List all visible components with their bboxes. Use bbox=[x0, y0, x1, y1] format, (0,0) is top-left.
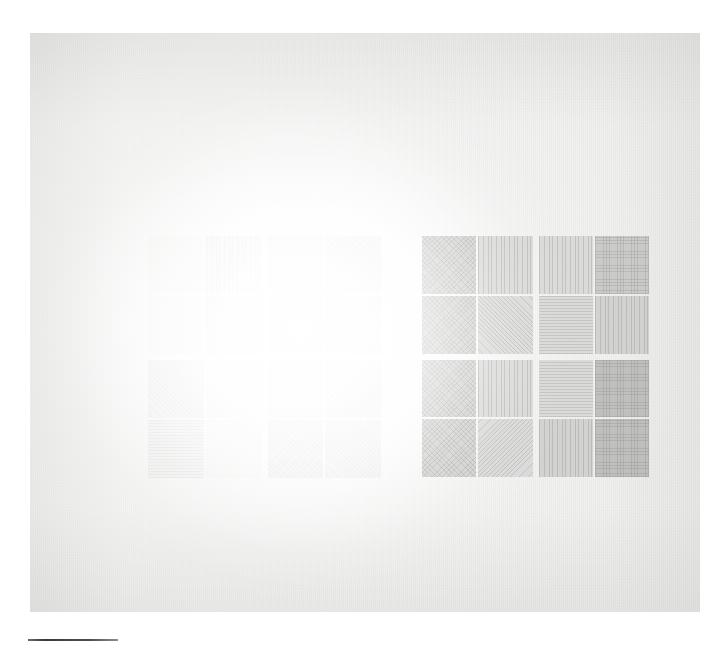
right-q-bottom-left bbox=[422, 360, 533, 478]
right-q-top-right-cell-4 bbox=[595, 296, 649, 354]
right-q-bottom-right-cell-2 bbox=[595, 360, 649, 418]
cell-hatch-grid bbox=[595, 236, 649, 294]
cell-hatch-vert bbox=[539, 419, 593, 477]
paper-sheet bbox=[30, 33, 700, 612]
right-q-top-right-cell-2 bbox=[595, 236, 649, 294]
right-q-top-left-cell-3 bbox=[422, 296, 476, 354]
left-q-bottom-right-cell-2 bbox=[325, 360, 381, 418]
right-q-top-left-cell-4 bbox=[478, 296, 532, 354]
left-q-bottom-left-cell-3 bbox=[148, 420, 204, 478]
left-q-top-right-cell-4 bbox=[325, 296, 381, 354]
cell-hatch-diag-l bbox=[268, 236, 324, 294]
right-q-bottom-left-cell-1 bbox=[422, 360, 476, 418]
artwork-plate bbox=[0, 0, 727, 650]
left-q-top-left-cell-1 bbox=[148, 236, 204, 294]
cell-hatch-diag-l bbox=[268, 360, 324, 418]
left-q-bottom-left-cell-4 bbox=[206, 420, 262, 478]
left-q-top-right-cell-2 bbox=[325, 236, 381, 294]
right-grid-composition bbox=[422, 236, 649, 477]
cell-hatch-vert bbox=[539, 236, 593, 294]
cell-hatch-plain bbox=[206, 360, 262, 418]
left-q-top-left-cell-4 bbox=[206, 296, 262, 354]
right-q-bottom-left-cell-2 bbox=[478, 360, 532, 418]
left-q-top-left-cell-2 bbox=[206, 236, 262, 294]
left-q-bottom-right bbox=[268, 360, 382, 478]
cell-hatch-chevron bbox=[325, 360, 381, 418]
right-q-top-right-cell-1 bbox=[539, 236, 593, 294]
right-q-top-left bbox=[422, 236, 533, 354]
left-grid-composition bbox=[148, 236, 381, 478]
right-q-bottom-left-cell-4 bbox=[478, 419, 532, 477]
cell-hatch-plain bbox=[206, 420, 262, 478]
cell-hatch-diag-r bbox=[478, 296, 532, 354]
right-q-bottom-right-cell-4 bbox=[595, 419, 649, 477]
cell-hatch-vert bbox=[478, 236, 532, 294]
left-q-bottom-right-cell-3 bbox=[268, 420, 324, 478]
cell-hatch-diag-r bbox=[325, 420, 381, 478]
cell-hatch-vert bbox=[478, 360, 532, 418]
cell-hatch-plain bbox=[148, 296, 204, 354]
left-q-bottom-left bbox=[148, 360, 262, 478]
cell-hatch-grid bbox=[595, 419, 649, 477]
cell-hatch-plain bbox=[148, 236, 204, 294]
cell-hatch-cross bbox=[422, 419, 476, 477]
cell-hatch-vert bbox=[595, 296, 649, 354]
left-q-top-right bbox=[268, 236, 382, 354]
right-q-bottom-left-cell-3 bbox=[422, 419, 476, 477]
cell-hatch-diag-l bbox=[478, 419, 532, 477]
cell-hatch-cross bbox=[422, 236, 476, 294]
cell-hatch-cross bbox=[422, 360, 476, 418]
left-q-bottom-right-cell-1 bbox=[268, 360, 324, 418]
cell-hatch-cross bbox=[268, 420, 324, 478]
cell-hatch-cross bbox=[422, 296, 476, 354]
right-q-bottom-right-cell-3 bbox=[539, 419, 593, 477]
cell-hatch-chevron bbox=[325, 236, 381, 294]
registration-rule bbox=[28, 639, 118, 641]
cell-hatch-diag-r bbox=[206, 296, 262, 354]
left-q-bottom-right-cell-4 bbox=[325, 420, 381, 478]
left-q-top-right-cell-3 bbox=[268, 296, 324, 354]
right-q-top-left-cell-2 bbox=[478, 236, 532, 294]
cell-hatch-diag-r bbox=[148, 360, 204, 418]
right-q-bottom-right-cell-1 bbox=[539, 360, 593, 418]
cell-hatch-horz bbox=[539, 360, 593, 418]
left-q-bottom-left-cell-2 bbox=[206, 360, 262, 418]
cell-hatch-cross bbox=[325, 296, 381, 354]
cell-hatch-diag-r bbox=[268, 296, 324, 354]
left-q-bottom-left-cell-1 bbox=[148, 360, 204, 418]
right-q-top-left-cell-1 bbox=[422, 236, 476, 294]
right-q-bottom-right bbox=[539, 360, 650, 478]
cell-hatch-grid bbox=[595, 360, 649, 418]
cell-hatch-vert bbox=[206, 236, 262, 294]
left-q-top-right-cell-1 bbox=[268, 236, 324, 294]
left-q-top-left bbox=[148, 236, 262, 354]
right-q-top-right bbox=[539, 236, 650, 354]
cell-hatch-horz bbox=[148, 420, 204, 478]
left-q-top-left-cell-3 bbox=[148, 296, 204, 354]
cell-hatch-horz bbox=[539, 296, 593, 354]
right-q-top-right-cell-3 bbox=[539, 296, 593, 354]
